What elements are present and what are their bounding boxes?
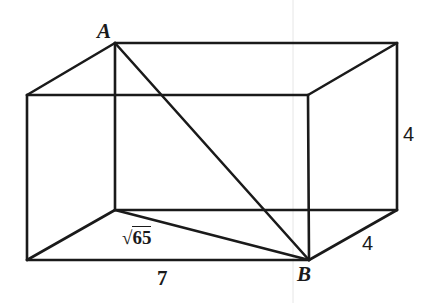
edge-bottom-right-depth xyxy=(309,210,397,260)
edge-front-right xyxy=(308,95,309,260)
length-label: 7 xyxy=(157,268,168,289)
radical-sign-icon: √ xyxy=(122,227,132,248)
base-diagonal-label: √65 xyxy=(122,228,151,247)
edge-bottom-left-depth xyxy=(27,210,115,260)
prism-drawing xyxy=(0,0,435,303)
radicand: 65 xyxy=(132,226,151,248)
edge-top-right-depth xyxy=(308,43,397,95)
edge-top-left-depth xyxy=(27,43,115,95)
vertex-label-a: A xyxy=(97,21,111,42)
vertex-label-b: B xyxy=(297,264,311,285)
prism-diagram: A B 4 4 7 √65 xyxy=(0,0,435,303)
depth-label: 4 xyxy=(362,233,373,253)
height-label: 4 xyxy=(403,124,414,144)
